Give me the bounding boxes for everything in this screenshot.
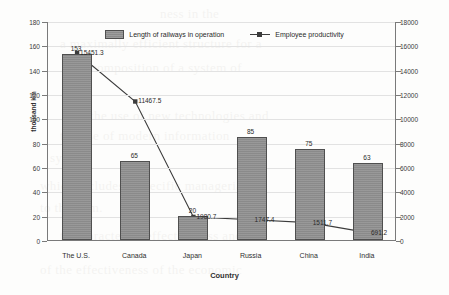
y-axis-right-tick (396, 168, 401, 169)
y-axis-right-tick-label: 8000 (400, 140, 440, 147)
line-marker[interactable] (133, 99, 137, 103)
y-axis-left-tick (42, 22, 47, 23)
gridline (48, 71, 395, 72)
gridline (48, 144, 395, 145)
y-axis-right-tick (396, 217, 401, 218)
y-axis-left-title: thousand km (30, 77, 37, 147)
line-value-label: 1747.4 (255, 216, 275, 223)
y-axis-left-tick (42, 46, 47, 47)
y-axis-left-tick (42, 95, 47, 96)
y-axis-right-tick-label: 0 (400, 238, 440, 245)
y-axis-right-tick (396, 95, 401, 96)
y-axis-left-tick (42, 217, 47, 218)
line-value-label: 1511.7 (313, 219, 332, 226)
y-axis-left-tick-label: 180 (8, 19, 40, 26)
y-axis-right-tick-label: 16000 (400, 43, 440, 50)
x-axis-title: Country (0, 271, 449, 280)
y-axis-right-tick (396, 46, 401, 47)
y-axis-left-tick (42, 71, 47, 72)
y-axis-left-tick-label: 20 (8, 213, 40, 220)
line-value-label: 15451.3 (80, 49, 104, 56)
x-axis-tick-label: India (332, 252, 402, 259)
line-value-label: 691.2 (371, 229, 387, 236)
bar-china[interactable] (295, 149, 325, 240)
y-axis-right-tick (396, 192, 401, 193)
y-axis-left-tick-label: 40 (8, 189, 40, 196)
y-axis-left-tick (42, 144, 47, 145)
bar-value-label: 75 (284, 140, 334, 147)
y-axis-left-tick-label: 120 (8, 92, 40, 99)
bleed-line: ness in the (160, 6, 219, 22)
bar-value-label: 63 (342, 154, 392, 161)
y-axis-right-tick-label: 10000 (400, 116, 440, 123)
y-axis-left-tick (42, 241, 47, 242)
y-axis-right-tick (396, 119, 401, 120)
y-axis-left-tick-label: 60 (8, 165, 40, 172)
y-axis-right-tick (396, 144, 401, 145)
y-axis-left-tick-label: 80 (8, 140, 40, 147)
gridline (48, 192, 395, 193)
y-axis-right-tick-label: 12000 (400, 92, 440, 99)
y-axis-right-tick-label: 6000 (400, 165, 440, 172)
chart-container: ness in the a maximally efficient struct… (0, 0, 449, 295)
y-axis-left-tick-label: 140 (8, 67, 40, 74)
y-axis-right-tick (396, 22, 401, 23)
bar-canada[interactable] (120, 161, 150, 240)
y-axis-left-tick-label: 0 (8, 238, 40, 245)
bar-value-label: 85 (226, 128, 276, 135)
bar-value-label: 65 (109, 152, 159, 159)
bar-russia[interactable] (237, 137, 267, 240)
y-axis-left-tick (42, 192, 47, 193)
y-axis-left-tick-label: 100 (8, 116, 40, 123)
line-value-label: 1980.7 (196, 213, 216, 220)
y-axis-left-tick (42, 168, 47, 169)
gridline (48, 217, 395, 218)
gridline (48, 119, 395, 120)
gridline (48, 22, 395, 23)
y-axis-left-tick-label: 160 (8, 43, 40, 50)
gridline (48, 95, 395, 96)
y-axis-right-tick-label: 14000 (400, 67, 440, 74)
y-axis-right-tick-label: 4000 (400, 189, 440, 196)
bar-the-u-s[interactable] (62, 54, 92, 240)
gridline (48, 168, 395, 169)
y-axis-left-tick (42, 119, 47, 120)
line-value-label: 11467.5 (138, 97, 161, 104)
y-axis-right-tick-label: 2000 (400, 213, 440, 220)
y-axis-right-tick (396, 71, 401, 72)
y-axis-right-tick-label: 18000 (400, 19, 440, 26)
y-axis-right-tick (396, 241, 401, 242)
